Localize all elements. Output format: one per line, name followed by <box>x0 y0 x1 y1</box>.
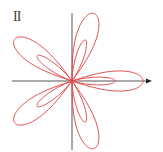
x-axis-arrow-icon <box>146 79 152 84</box>
polar-rose-plot <box>0 0 163 152</box>
